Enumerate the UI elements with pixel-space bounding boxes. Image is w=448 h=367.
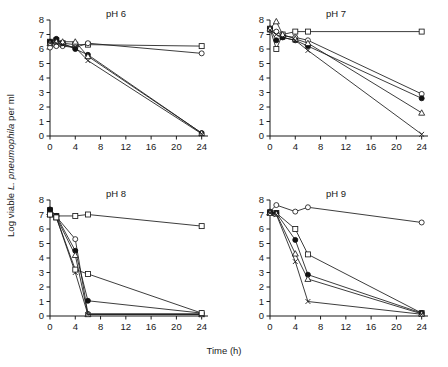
svg-text:1: 1	[259, 116, 264, 127]
marker-filled-circle	[274, 38, 279, 43]
svg-text:3: 3	[259, 87, 264, 98]
marker-open-triangle	[273, 18, 279, 23]
svg-text:2: 2	[259, 281, 264, 292]
svg-text:4: 4	[293, 321, 298, 332]
svg-text:24: 24	[196, 141, 207, 152]
figure-canvas: Log viable L. pneumophila per ml pH 6 01…	[0, 0, 448, 367]
svg-text:6: 6	[39, 43, 44, 54]
svg-text:2: 2	[39, 101, 44, 112]
marker-open-square	[419, 29, 424, 34]
svg-text:5: 5	[39, 238, 44, 249]
marker-open-circle	[305, 205, 310, 210]
svg-text:5: 5	[259, 238, 264, 249]
svg-text:8: 8	[98, 321, 103, 332]
marker-open-circle	[85, 41, 90, 46]
svg-text:4: 4	[73, 141, 78, 152]
svg-text:5: 5	[259, 58, 264, 69]
svg-text:16: 16	[146, 321, 157, 332]
panel-ph8: pH 8 01234567804812162024	[28, 186, 228, 346]
svg-text:8: 8	[259, 14, 264, 25]
svg-text:6: 6	[259, 43, 264, 54]
marker-open-square	[305, 29, 310, 34]
marker-open-square	[73, 267, 78, 272]
marker-open-triangle	[292, 251, 298, 256]
series-line-cross	[270, 30, 422, 134]
svg-text:4: 4	[259, 252, 264, 263]
y-axis-label-suffix: per ml	[6, 93, 17, 123]
marker-open-square	[305, 252, 310, 257]
y-axis-label-wrap: Log viable L. pneumophila per ml	[0, 0, 22, 330]
svg-text:1: 1	[39, 116, 44, 127]
svg-text:0: 0	[47, 321, 52, 332]
marker-open-square	[274, 47, 279, 52]
marker-open-square	[199, 224, 204, 229]
svg-text:0: 0	[259, 310, 264, 321]
series-line-open-circle-flat	[270, 205, 422, 222]
plot-area-ph8: 01234567804812162024	[28, 186, 228, 346]
panel-title-ph9: pH 9	[326, 188, 346, 199]
svg-text:1: 1	[259, 296, 264, 307]
svg-text:24: 24	[416, 321, 427, 332]
marker-open-circle	[419, 220, 424, 225]
y-axis-label-species: L. pneumophila	[6, 123, 17, 189]
marker-cross	[293, 259, 298, 264]
svg-text:6: 6	[259, 223, 264, 234]
svg-text:4: 4	[39, 72, 44, 83]
svg-text:0: 0	[39, 310, 44, 321]
panel-title-ph6: pH 6	[106, 8, 126, 19]
svg-text:8: 8	[318, 321, 323, 332]
marker-open-square	[199, 44, 204, 49]
svg-text:8: 8	[98, 141, 103, 152]
svg-text:4: 4	[39, 252, 44, 263]
svg-text:3: 3	[39, 267, 44, 278]
svg-text:24: 24	[196, 321, 207, 332]
svg-text:7: 7	[259, 209, 264, 220]
svg-text:2: 2	[259, 101, 264, 112]
svg-text:4: 4	[293, 141, 298, 152]
svg-text:8: 8	[318, 141, 323, 152]
y-axis-label: Log viable L. pneumophila per ml	[6, 93, 17, 236]
svg-text:20: 20	[391, 141, 402, 152]
series-line-open-square-decline	[50, 215, 202, 314]
panel-ph6: pH 6 01234567804812162024	[28, 6, 228, 166]
svg-text:20: 20	[171, 321, 182, 332]
svg-text:1: 1	[39, 296, 44, 307]
svg-text:6: 6	[39, 223, 44, 234]
svg-text:0: 0	[267, 141, 272, 152]
marker-open-circle	[274, 203, 279, 208]
svg-text:5: 5	[39, 58, 44, 69]
svg-text:12: 12	[341, 321, 352, 332]
svg-text:0: 0	[39, 130, 44, 141]
svg-text:0: 0	[47, 141, 52, 152]
svg-text:0: 0	[267, 321, 272, 332]
series-line-open-triangle	[270, 21, 422, 112]
panel-ph9: pH 9 01234567804812162024	[248, 186, 448, 346]
svg-text:2: 2	[39, 281, 44, 292]
svg-text:4: 4	[259, 72, 264, 83]
plot-area-ph7: 01234567804812162024	[248, 6, 448, 166]
series-line-cross	[50, 215, 202, 315]
svg-text:3: 3	[39, 87, 44, 98]
svg-text:8: 8	[39, 194, 44, 205]
svg-text:12: 12	[121, 321, 132, 332]
marker-open-square	[48, 212, 53, 217]
svg-text:7: 7	[39, 209, 44, 220]
svg-text:16: 16	[146, 141, 157, 152]
marker-open-square	[54, 215, 59, 220]
series-line-filled-circle	[50, 209, 202, 313]
marker-filled-circle	[293, 237, 298, 242]
marker-open-circle	[293, 209, 298, 214]
marker-open-triangle	[305, 276, 311, 281]
marker-open-square	[73, 213, 78, 218]
marker-open-circle	[199, 51, 204, 56]
marker-open-square	[293, 29, 298, 34]
svg-text:3: 3	[259, 267, 264, 278]
panel-title-ph7: pH 7	[326, 8, 346, 19]
marker-filled-circle	[419, 96, 424, 101]
svg-text:7: 7	[259, 29, 264, 40]
svg-text:4: 4	[73, 321, 78, 332]
svg-text:12: 12	[121, 141, 132, 152]
svg-text:8: 8	[39, 14, 44, 25]
svg-text:0: 0	[259, 130, 264, 141]
svg-text:8: 8	[259, 194, 264, 205]
